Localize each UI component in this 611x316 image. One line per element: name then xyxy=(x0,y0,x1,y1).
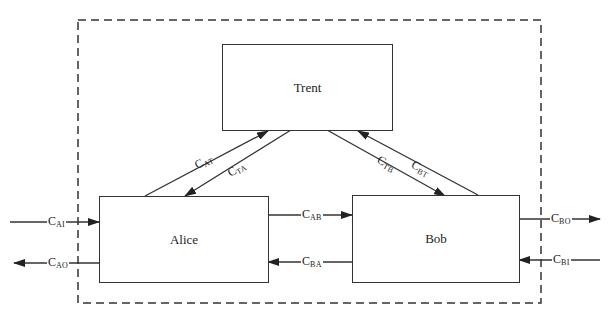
node-bob: Bob xyxy=(352,195,520,283)
channel-ai-label: CAI xyxy=(47,215,66,229)
channel-ab-label: CAB xyxy=(301,208,323,222)
channel-bi-label: CBI xyxy=(552,253,571,267)
node-trent-label: Trent xyxy=(294,80,322,96)
channel-bo-label: CBO xyxy=(550,212,572,226)
channel-ao-label: CAO xyxy=(47,256,69,270)
channel-ba-label: CBA xyxy=(301,255,323,269)
node-alice: Alice xyxy=(99,196,269,283)
node-bob-label: Bob xyxy=(425,231,447,247)
node-trent: Trent xyxy=(222,44,393,131)
node-alice-label: Alice xyxy=(170,232,198,248)
